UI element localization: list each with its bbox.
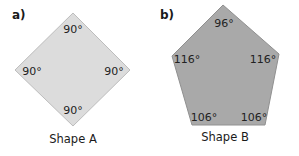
angle-bottom-a: 90°	[63, 104, 83, 117]
angle-right-b: 116°	[250, 53, 277, 66]
angle-bottom-right-b: 106°	[241, 111, 268, 124]
diagram-canvas: a) 90° 90° 90° 90° Shape A b) 96° 116° 1…	[0, 0, 299, 156]
angle-left-b: 116°	[174, 53, 201, 66]
angle-top-b: 96°	[214, 17, 234, 30]
angle-left-a: 90°	[22, 65, 42, 78]
part-label-b: b)	[160, 8, 174, 22]
shape-b: b) 96° 116° 116° 106° 106° Shape B	[160, 5, 279, 144]
part-label-a: a)	[12, 8, 26, 22]
shape-a: a) 90° 90° 90° 90° Shape A	[12, 8, 130, 146]
caption-shape-a: Shape A	[49, 132, 97, 146]
angle-bottom-left-b: 106°	[191, 111, 218, 124]
angle-top-a: 90°	[63, 23, 83, 36]
caption-shape-b: Shape B	[201, 130, 249, 144]
angle-right-a: 90°	[104, 65, 124, 78]
